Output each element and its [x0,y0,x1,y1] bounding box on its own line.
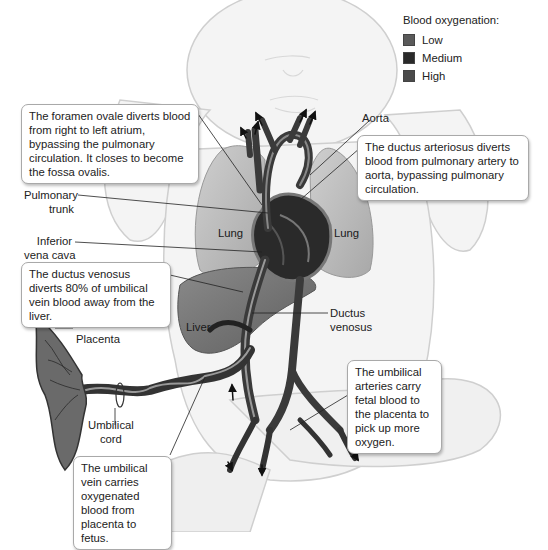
label-ductus-venosus: Ductus venosus [330,306,372,334]
label-pulmonary-trunk-line2: trunk [24,202,74,216]
blood-oxygenation-legend: Blood oxygenation: Low Medium High [403,14,499,85]
label-pulmonary-trunk-line1: Pulmonary [24,188,74,202]
callout-umbilical-vein: The umbilical vein carries oxygenated bl… [73,456,172,550]
organ-label-lung-left: Lung [218,227,243,239]
callout-ductus-arteriosus: The ductus arteriosus diverts blood from… [357,135,529,201]
legend-swatch-low [403,34,415,46]
organ-label-liver: Liver [186,321,211,333]
legend-label-medium: Medium [422,52,462,64]
callout-foramen-ovale: The foramen ovale diverts blood from rig… [21,104,199,184]
label-placenta: Placenta [76,332,120,346]
label-inferior-vena-cava-line1: Inferior [24,234,72,248]
callout-umbilical-arteries: The umbilical arteries carry fetal blood… [347,360,442,454]
label-inferior-vena-cava-line2: vena cava [24,248,72,262]
label-umbilical-cord-line1: Umbilical [88,418,134,432]
legend-title: Blood oxygenation: [403,14,499,26]
legend-swatch-high [403,70,415,82]
label-inferior-vena-cava: Inferior vena cava [24,234,72,262]
organ-label-lung-right: Lung [334,227,359,239]
label-umbilical-cord: Umbilical cord [88,418,134,446]
legend-item-low: Low [403,31,499,49]
label-ductus-venosus-line2: venosus [330,320,372,334]
legend-swatch-medium [403,52,415,64]
label-aorta: Aorta [362,111,389,125]
callout-ductus-venosus: The ductus venosus diverts 80% of umbili… [21,262,171,328]
legend-item-high: High [403,67,499,85]
label-pulmonary-trunk: Pulmonary trunk [24,188,74,216]
legend-label-low: Low [422,34,443,46]
legend-item-medium: Medium [403,49,499,67]
legend-label-high: High [422,70,445,82]
label-umbilical-cord-line2: cord [88,432,134,446]
label-ductus-venosus-line1: Ductus [330,306,372,320]
